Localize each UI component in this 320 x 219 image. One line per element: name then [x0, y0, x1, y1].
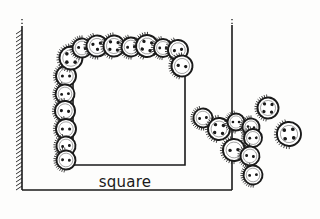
button-hole [73, 60, 77, 64]
button-hole [232, 121, 235, 124]
button-icon [272, 118, 302, 151]
button-icon [254, 94, 280, 123]
buttons-top-row [56, 29, 194, 80]
button-hole [158, 47, 161, 50]
button-hole [68, 74, 71, 77]
figure-canvas: square [0, 0, 320, 219]
square-label: square [60, 173, 190, 191]
border-hatching [16, 30, 22, 190]
buttons-scatter-cluster [189, 94, 303, 189]
button-hole [65, 52, 69, 56]
button-hole [61, 127, 64, 130]
button-hole [238, 121, 241, 124]
buttons-left-column [51, 63, 78, 173]
square-outline [73, 48, 185, 165]
button-hole [68, 127, 71, 130]
button-hole [65, 60, 69, 64]
button-hole [61, 74, 64, 77]
